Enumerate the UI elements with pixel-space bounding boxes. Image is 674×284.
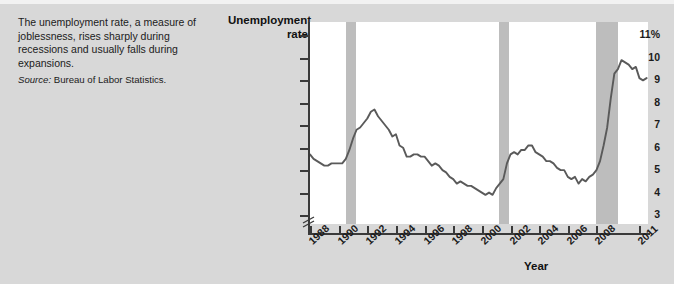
y-tick-mark bbox=[300, 80, 308, 82]
y-tick-mark bbox=[300, 148, 308, 150]
x-axis-title: Year bbox=[524, 260, 548, 272]
y-tick-label: 4 bbox=[594, 186, 660, 198]
y-tick-label: 7 bbox=[594, 118, 660, 130]
y-tick-label: 5 bbox=[594, 163, 660, 175]
y-tick-mark bbox=[300, 215, 308, 217]
y-tick-mark bbox=[300, 58, 308, 60]
source-label: Source: bbox=[18, 74, 51, 85]
figure-top-edge bbox=[0, 0, 674, 4]
y-tick-mark bbox=[300, 170, 308, 172]
y-tick-label: 8 bbox=[594, 96, 660, 108]
caption-body: The unemployment rate, a measure of jobl… bbox=[18, 16, 216, 70]
caption-source: Source: Bureau of Labor Statistics. bbox=[18, 73, 216, 87]
y-tick-mark bbox=[300, 35, 308, 37]
y-tick-label: 9 bbox=[594, 73, 660, 85]
y-tick-label: 6 bbox=[594, 141, 660, 153]
y-tick-label: 3 bbox=[594, 208, 660, 220]
y-tick-mark bbox=[300, 103, 308, 105]
y-axis-line bbox=[308, 22, 310, 234]
y-tick-mark bbox=[300, 193, 308, 195]
figure-container: The unemployment rate, a measure of jobl… bbox=[0, 0, 674, 284]
y-tick-mark bbox=[300, 125, 308, 127]
y-axis-title: Unemploymentrate bbox=[228, 14, 308, 41]
y-tick-label: 10 bbox=[594, 51, 660, 63]
unemployment-rate-chart: Unemploymentrate 11%109876543 1988199019… bbox=[228, 10, 660, 274]
y-tick-label: 11% bbox=[594, 28, 660, 40]
source-value: Bureau of Labor Statistics. bbox=[54, 74, 167, 85]
figure-caption: The unemployment rate, a measure of jobl… bbox=[18, 16, 216, 87]
